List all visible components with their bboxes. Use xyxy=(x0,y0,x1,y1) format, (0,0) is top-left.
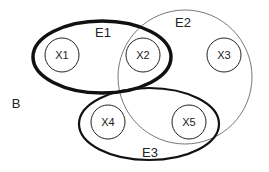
node-x5: X5 xyxy=(172,105,206,139)
hyperedge-e2-label: E2 xyxy=(175,15,191,30)
background-set-label: B xyxy=(12,96,21,111)
node-x2: X2 xyxy=(126,38,160,72)
node-x3: X3 xyxy=(207,38,241,72)
node-x4: X4 xyxy=(91,105,125,139)
hypergraph-diagram: X1 X2 X3 X4 X5 E1 E2 E3 B xyxy=(0,0,269,172)
node-x2-label: X2 xyxy=(136,49,149,61)
node-x1-label: X1 xyxy=(55,49,68,61)
hyperedge-e1-label: E1 xyxy=(95,25,111,40)
node-x4-label: X4 xyxy=(101,116,114,128)
node-x3-label: X3 xyxy=(217,49,230,61)
hyperedge-e3-label: E3 xyxy=(142,145,158,160)
node-x5-label: X5 xyxy=(182,116,195,128)
node-x1: X1 xyxy=(45,38,79,72)
